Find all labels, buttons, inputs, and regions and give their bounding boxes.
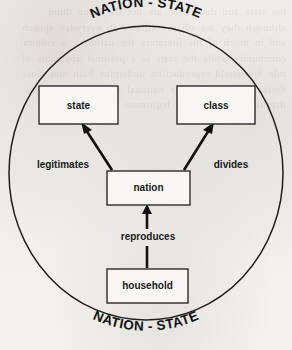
edge-nation-to-class-line: [184, 130, 209, 170]
node-household[interactable]: household: [107, 269, 188, 303]
node-household-label: household: [122, 280, 173, 291]
boundary-label-bottom: NATION - STATE: [91, 308, 201, 334]
boundary-label-top-text: NATION - STATE: [88, 0, 205, 21]
diagram-canvas: NATION - STATE NATION - STATE state: [0, 0, 292, 350]
edge-label-legitimates: legitimates: [37, 159, 90, 170]
node-state-label: state: [67, 100, 91, 111]
node-state[interactable]: state: [39, 86, 118, 124]
edge-label-divides: divides: [214, 159, 249, 170]
edge-nation-to-class: [184, 122, 214, 170]
boundary-label-top: NATION - STATE: [88, 0, 205, 21]
node-nation-label: nation: [134, 182, 164, 193]
boundary-label-bottom-text: NATION - STATE: [91, 308, 201, 334]
node-class[interactable]: class: [177, 86, 255, 124]
nation-state-figure: the state and the nation are not the sam…: [0, 0, 292, 350]
edge-nation-to-state-line: [86, 130, 112, 170]
node-nation[interactable]: nation: [107, 171, 190, 205]
edge-label-reproduces: reproduces: [121, 231, 176, 242]
node-class-label: class: [203, 100, 228, 111]
